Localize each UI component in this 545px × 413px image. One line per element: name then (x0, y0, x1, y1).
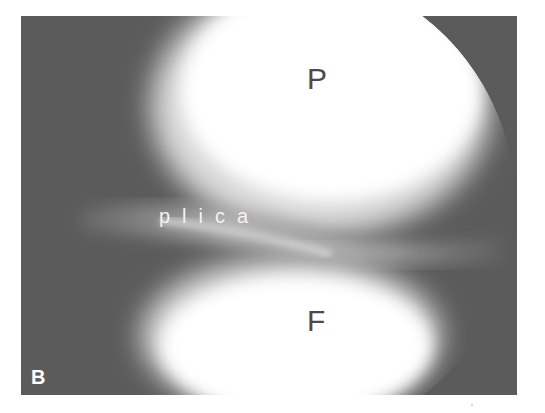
scan-speck (471, 404, 473, 406)
patella-label: P (307, 64, 327, 94)
plica-label: plica (159, 206, 260, 226)
femur-label: F (307, 306, 325, 336)
arthroscopic-scene (21, 16, 517, 395)
panel-label: B (31, 367, 45, 387)
arthroscopic-image: P F plica B (21, 16, 517, 395)
